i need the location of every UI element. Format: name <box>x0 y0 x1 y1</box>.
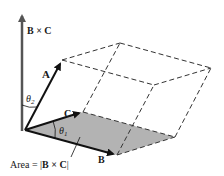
cross-axis-label: B × C <box>27 25 52 36</box>
vector-c-label: C <box>64 108 71 119</box>
theta2-arc <box>22 105 37 107</box>
theta2-label: θ2 <box>26 93 35 106</box>
area-label: Area = |B × C| <box>10 159 69 170</box>
parallelepiped-diagram: B × C A B C θ1 θ2 Area = |B × C| <box>0 0 224 176</box>
vector-a-label: A <box>42 68 50 80</box>
base-face <box>25 112 175 155</box>
vector-b-label: B <box>98 154 105 165</box>
diagram-canvas: B × C A B C θ1 θ2 Area = |B × C| <box>0 0 224 176</box>
